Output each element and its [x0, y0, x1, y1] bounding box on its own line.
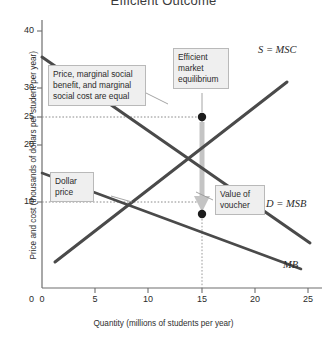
x-tick-label-15: 15 — [192, 294, 212, 304]
efficient-equilibrium-point — [198, 113, 206, 121]
y-tick-label-25: 25 — [12, 111, 34, 121]
y-tick-label-10: 10 — [12, 196, 34, 206]
callout-value-of-voucher: Value of voucher — [215, 185, 265, 215]
y-tick-label-20: 20 — [12, 139, 34, 149]
callout-leader-lines — [111, 93, 213, 202]
callout-price-msb-msc-equal: Price, marginal social benefit, and marg… — [48, 65, 146, 106]
x-tick-label-25: 25 — [298, 294, 318, 304]
supply-curve-label: S = MSC — [258, 44, 297, 55]
dollar-price-point — [198, 210, 206, 218]
y-tick-label-40: 40 — [12, 25, 34, 35]
x-tick-marks — [95, 288, 308, 293]
mb-curve-label: MB — [283, 259, 298, 270]
callout-efficient-market-equilibrium: Efficient market equilibrium — [173, 48, 229, 89]
x-tick-label-0: 0 — [32, 294, 52, 304]
x-tick-label-5: 5 — [85, 294, 105, 304]
x-tick-label-10: 10 — [138, 294, 158, 304]
x-tick-label-20: 20 — [245, 294, 265, 304]
leader-equal — [146, 93, 168, 104]
demand-curve-label: D = MSB — [266, 198, 306, 209]
y-tick-label-0: 0 — [12, 294, 34, 304]
chart-figure: Efficient Outcome — [0, 0, 327, 338]
y-tick-label-30: 30 — [12, 82, 34, 92]
callout-dollar-price: Dollar price — [50, 172, 94, 202]
x-axis-title: Quantity (millions of students per year) — [0, 319, 327, 328]
